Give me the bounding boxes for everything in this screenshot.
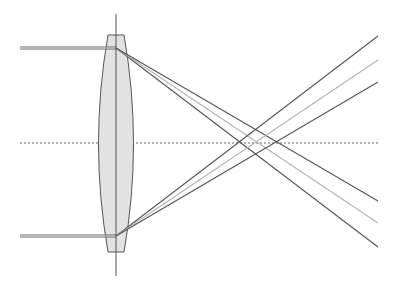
bottom-ray-mid-focus <box>116 60 378 236</box>
bottom-ray-short-focus <box>116 36 378 236</box>
refracted-rays <box>116 36 378 247</box>
top-ray-long-focus <box>116 48 378 201</box>
bottom-ray-long-focus <box>116 82 378 236</box>
lens-diagram <box>0 0 419 286</box>
